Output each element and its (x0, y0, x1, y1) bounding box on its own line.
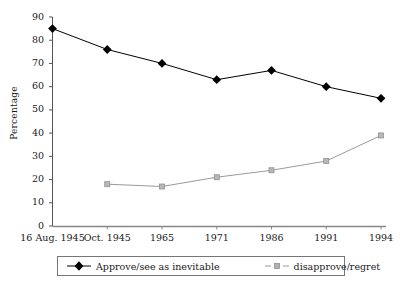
data-point-marker (158, 59, 167, 68)
data-point-marker (379, 133, 384, 138)
x-tick-label: 1994 (338, 232, 400, 243)
y-tick-label: 40 (22, 127, 44, 138)
data-point-marker (212, 75, 221, 84)
data-point-marker (324, 158, 329, 163)
data-point-marker (377, 94, 386, 103)
data-point-marker (214, 175, 219, 180)
chart-series-layer (48, 24, 385, 189)
y-tick-label: 60 (22, 80, 44, 91)
y-tick-label: 10 (22, 196, 44, 207)
y-axis-title: Percentage (9, 77, 19, 149)
y-tick-label: 0 (22, 220, 44, 231)
y-tick-label: 80 (22, 34, 44, 45)
legend-label-approve: Approve/see as inevitable (96, 261, 220, 272)
data-point-marker (48, 24, 57, 33)
y-tick-label: 90 (22, 11, 44, 22)
y-tick-label: 70 (22, 57, 44, 68)
y-tick-label: 50 (22, 103, 44, 114)
legend-item-approve[interactable]: Approve/see as inevitable (66, 257, 220, 275)
series-line-disapprove (107, 135, 381, 186)
y-tick-label: 30 (22, 150, 44, 161)
chart-axes (49, 17, 386, 230)
legend-swatch-square-icon (264, 260, 290, 272)
data-point-marker (160, 184, 165, 189)
chart-legend: Approve/see as inevitable disapprove/reg… (57, 256, 345, 276)
data-point-marker (105, 182, 110, 187)
data-point-marker (103, 45, 112, 54)
data-point-marker (269, 168, 274, 173)
legend-item-disapprove[interactable]: disapprove/regret (264, 257, 381, 275)
y-tick-label: 20 (22, 173, 44, 184)
chart-figure: Percentage 0102030405060708090 16 Aug. 1… (0, 0, 400, 289)
data-point-marker (322, 82, 331, 91)
series-line-approve (53, 29, 382, 99)
legend-swatch-diamond-icon (66, 260, 92, 272)
legend-label-disapprove: disapprove/regret (294, 261, 381, 272)
y-axis-ticks (49, 17, 53, 226)
line-chart-plot (0, 0, 400, 289)
data-point-marker (267, 66, 276, 75)
